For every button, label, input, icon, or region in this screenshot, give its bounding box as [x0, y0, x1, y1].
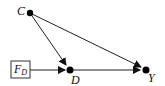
label-d: D [70, 73, 80, 86]
edge-c-y [30, 13, 141, 67]
causal-diagram: C FD D Y [0, 0, 165, 86]
edge-c-d [30, 13, 66, 65]
label-c: C [17, 4, 26, 18]
node-c [27, 10, 33, 16]
label-y: Y [148, 71, 156, 85]
